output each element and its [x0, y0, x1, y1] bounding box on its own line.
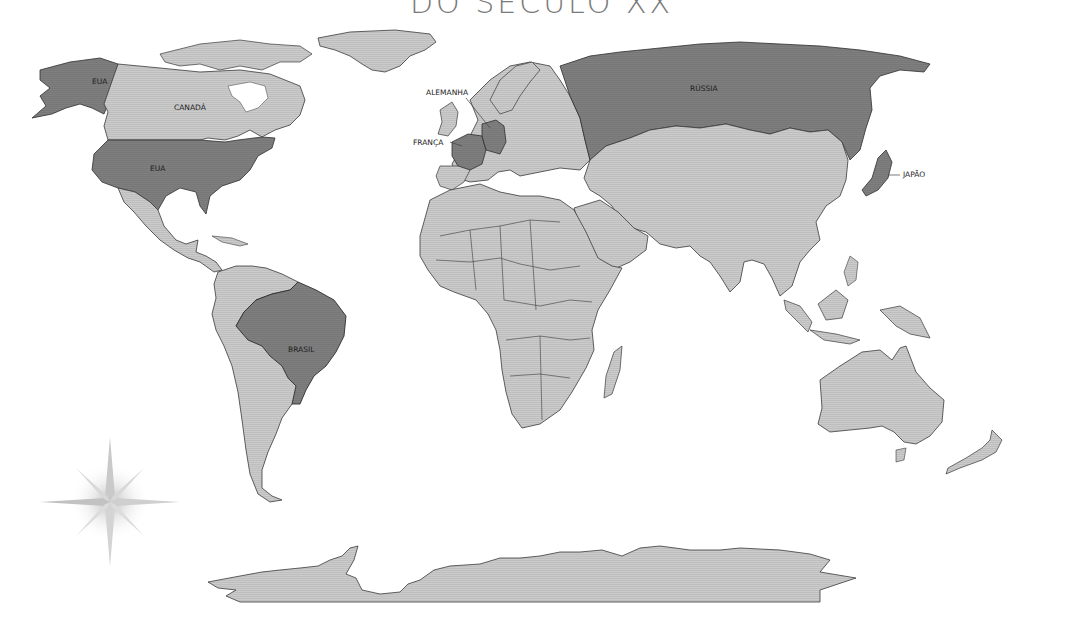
antarctica — [208, 546, 856, 602]
label-eua: EUA — [150, 164, 166, 173]
compass-rose-icon — [40, 437, 180, 567]
label-alemanha: ALEMANHA — [426, 88, 469, 97]
label-japao: JAPÃO — [902, 170, 925, 179]
tasmania — [896, 448, 906, 462]
indonesia — [784, 290, 930, 344]
world-map: EUA CANADÁ EUA ALEMANHA FRANÇA RÚSSIA JA… — [0, 0, 1083, 619]
iberia — [436, 166, 470, 190]
asia — [584, 124, 848, 296]
philippines — [844, 256, 858, 286]
label-brasil: BRASIL — [288, 345, 315, 354]
arctic-islands — [160, 40, 312, 70]
germany — [482, 120, 506, 154]
australia — [818, 346, 944, 444]
japan — [862, 150, 892, 196]
madagascar — [604, 346, 622, 398]
label-eua-alaska: EUA — [92, 77, 108, 86]
new-zealand — [946, 430, 1002, 474]
alaska — [32, 58, 118, 118]
usa — [92, 137, 275, 214]
cuba — [212, 236, 248, 246]
label-russia: RÚSSIA — [690, 84, 718, 93]
label-canada: CANADÁ — [174, 103, 207, 112]
canada — [104, 64, 305, 140]
greenland — [318, 30, 436, 72]
uk — [438, 102, 458, 136]
label-franca: FRANÇA — [413, 138, 444, 147]
france — [452, 134, 486, 170]
